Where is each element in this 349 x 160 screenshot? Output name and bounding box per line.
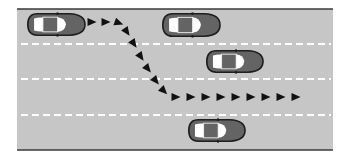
lane-change-diagram [0,0,349,160]
car-lane1-ahead-icon [163,12,220,37]
car-ego-icon [28,12,85,36]
car-lane2-icon [207,49,263,73]
car-lane4-icon [189,118,245,142]
